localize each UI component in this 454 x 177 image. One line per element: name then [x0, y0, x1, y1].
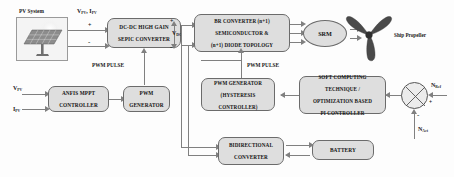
arrow-pwmgen-to-sepic — [141, 48, 147, 53]
solar-panel-icon — [17, 18, 69, 62]
wire-nref-to-sum — [431, 95, 447, 96]
battery-label: BATTERY — [314, 147, 372, 153]
dc-bus-down-rail-1 — [181, 25, 182, 147]
v-pv-input-label: VPV — [13, 85, 22, 92]
dcbus-minus-sign: - — [170, 43, 172, 51]
soft-line-4: PI CONTROLLER — [301, 110, 384, 116]
wire-pwmhyst-to-br — [241, 52, 242, 78]
dcbus-plus-sign: + — [170, 18, 173, 24]
summing-cross-icon — [402, 83, 429, 110]
br-line-2: SEMICONDUCTOR & — [196, 30, 288, 36]
sepic-line-2: SEPIC CONVERTER — [109, 36, 179, 42]
soft-line-1: SOFT COMPUTING — [301, 74, 384, 80]
dc-bus-down-rail-2 — [188, 45, 189, 155]
ship-propeller-label: Ship Propeller — [394, 33, 426, 39]
wire-rail1-to-bidir — [181, 147, 217, 148]
sum-minus-sign: - — [417, 111, 419, 119]
pwmgen-line-1: PWM — [125, 90, 168, 96]
arrow-battery-to-bidir — [285, 152, 290, 158]
pwmhyst-line-3: CONTROLLER) — [203, 104, 273, 110]
n-act-label: NAct — [418, 126, 428, 133]
diagram-canvas: PV System — [0, 0, 454, 177]
wire-pwmgen-to-sepic — [144, 52, 145, 85]
i-pv-in-subscript: PV — [15, 109, 20, 113]
arrow-sum-to-soft — [385, 92, 390, 98]
pv-system-label: PV System — [19, 9, 44, 15]
anfis-line-1: ANFIS MPPT — [50, 90, 107, 96]
br-line-1: BR CONVERTER (n+1) — [196, 18, 288, 24]
pwmgen-line-2: GENERATOR — [125, 102, 168, 108]
arrow-pwmhyst-to-br — [238, 48, 244, 53]
wire-vpv-to-anfis — [22, 94, 46, 95]
pwmhyst-line-1: PWM GENERATOR — [203, 80, 273, 86]
soft-computing-pi-controller-block[interactable]: SOFT COMPUTING TECHNIQUE / OPTIMIZATION … — [299, 76, 386, 114]
sepic-line-1: DC-DC HIGH GAIN — [109, 24, 179, 30]
soft-line-2: TECHNIQUE / — [301, 86, 384, 92]
summing-junction — [401, 82, 428, 109]
n-ref-subscript: Ref — [435, 85, 441, 89]
wire-rail2-to-bidir — [188, 155, 217, 156]
i-pv-subscript: PV — [92, 11, 97, 15]
srm-label: SRM — [318, 30, 332, 37]
ship-propeller-graphic — [338, 4, 400, 70]
pv-output-signal-label: VPV, IPV — [77, 8, 97, 15]
wire-pwmhyst-top-run — [201, 60, 241, 61]
pv-minus-sign: - — [88, 38, 90, 46]
bidir-line-1: BIDIRECTIONAL — [220, 142, 282, 148]
v-pv-in-subscript: PV — [17, 88, 22, 92]
wire-ipv-to-anfis — [22, 109, 46, 110]
pwm-pulse-left-label: PWM PULSE — [92, 63, 124, 69]
soft-line-3: OPTIMIZATION BASED — [301, 98, 384, 104]
propeller-icon — [338, 4, 400, 66]
battery-block[interactable]: BATTERY — [312, 140, 374, 160]
arrow-nref-to-sum — [428, 92, 433, 98]
pwm-hysteresis-controller-block[interactable]: PWM GENERATOR (HYSTERESIS CONTROLLER) — [201, 78, 275, 111]
pwm-pulse-right-label: PWM PULSE — [247, 63, 279, 69]
sum-plus-sign: + — [429, 99, 432, 105]
bidir-line-2: CONVERTER — [220, 154, 282, 160]
pwmhyst-line-2: (HYSTERESIS — [203, 92, 273, 98]
arrow-soft-to-pwmhyst — [280, 92, 285, 98]
anfis-line-2: CONTROLLER — [50, 102, 107, 108]
n-ref-label: NRef — [431, 82, 441, 89]
anfis-mppt-controller-block[interactable]: ANFIS MPPT CONTROLLER — [48, 86, 109, 112]
wire-nact-to-sum — [414, 113, 415, 139]
pv-plus-sign: + — [88, 22, 91, 28]
i-pv-input-label: IPV — [13, 106, 20, 113]
wire-bidir-to-battery — [286, 145, 310, 146]
bidirectional-converter-block[interactable]: BIDIRECTIONAL CONVERTER — [218, 137, 284, 165]
pwm-generator-block[interactable]: PWM GENERATOR — [123, 86, 170, 112]
wire-pv-to-sepic-top — [68, 30, 106, 31]
wire-pv-to-sepic-bottom — [68, 46, 106, 47]
pv-system-panel-box — [16, 17, 68, 61]
br-converter-block[interactable]: BR CONVERTER (n+1) SEMICONDUCTOR & (n+1)… — [194, 14, 290, 52]
n-act-subscript: Act — [422, 129, 428, 133]
